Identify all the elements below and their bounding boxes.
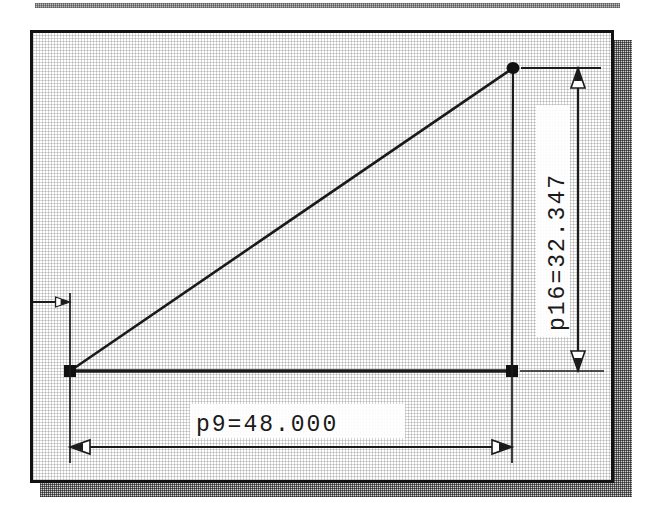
apex-vertex-marker[interactable] <box>507 62 520 74</box>
hypotenuse-edge <box>70 68 513 371</box>
horizontal-dimension-arrow-left <box>70 440 90 454</box>
horizontal-dimension-label: p9=48.000 <box>196 412 338 438</box>
vertical-dimension-arrow-up <box>571 68 585 88</box>
vertical-dimension-arrow-down <box>571 351 585 371</box>
horizontal-dimension-arrow-right <box>492 440 512 454</box>
angle-marker-arrow-icon <box>56 297 70 307</box>
horizontal-dimension[interactable]: p9=48.000 <box>70 404 512 454</box>
vertical-dimension-label: p16=32.347 <box>545 173 571 331</box>
vertical-dimension[interactable]: p16=32.347 <box>536 68 585 371</box>
triangle-geometry <box>70 68 513 371</box>
drawing-canvas: p9=48.000 p16=32.347 <box>0 0 650 517</box>
vertical-leg-edge <box>512 68 513 371</box>
extension-lines <box>70 68 604 463</box>
technical-drawing: p9=48.000 p16=32.347 <box>0 0 650 517</box>
angle-marker-annotation[interactable] <box>33 297 70 307</box>
